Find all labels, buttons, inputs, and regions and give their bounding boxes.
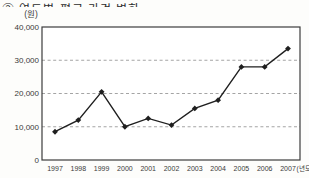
y-tick-label: 30,000 bbox=[15, 56, 40, 65]
line-chart: 010,00020,00030,00040,000(원)199719981999… bbox=[0, 0, 309, 178]
y-tick-label: 0 bbox=[35, 156, 40, 165]
x-tick-label: 2007 bbox=[280, 165, 296, 172]
x-axis-unit-label: (년도) bbox=[297, 164, 310, 173]
x-tick-label: 2005 bbox=[234, 165, 250, 172]
x-tick-label: 2006 bbox=[257, 165, 273, 172]
x-tick-label: 2000 bbox=[117, 165, 133, 172]
y-axis-unit-label: (원) bbox=[24, 9, 38, 19]
x-tick-label: 2002 bbox=[164, 165, 180, 172]
x-tick-label: 1997 bbox=[47, 165, 63, 172]
y-tick-label: 40,000 bbox=[15, 23, 40, 32]
x-tick-label: 1999 bbox=[94, 165, 110, 172]
y-tick-label: 20,000 bbox=[15, 89, 40, 98]
line-chart-figure: ② 연도별 평균 가격 변화 010,00020,00030,00040,000… bbox=[0, 0, 309, 178]
x-tick-label: 1998 bbox=[71, 165, 87, 172]
x-tick-label: 2004 bbox=[210, 165, 226, 172]
y-tick-label: 10,000 bbox=[15, 123, 40, 132]
x-tick-label: 2001 bbox=[140, 165, 156, 172]
x-tick-label: 2003 bbox=[187, 165, 203, 172]
